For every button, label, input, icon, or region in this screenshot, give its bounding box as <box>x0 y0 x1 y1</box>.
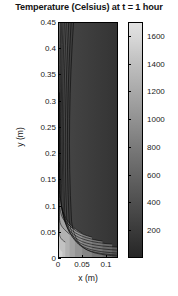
colorbar-label-1200: 1200 <box>147 87 165 96</box>
ytick-mark <box>58 48 61 49</box>
xtick-label-0: 0 <box>56 260 60 269</box>
colorbar-tick-mark <box>128 64 131 65</box>
colorbar-label-800: 800 <box>147 142 160 151</box>
colorbar-tick-mark <box>128 202 131 203</box>
ytick-label-9: 0.45 <box>40 18 56 27</box>
ytick-label-7: 0.35 <box>40 70 56 79</box>
ytick-label-4: 0.2 <box>45 149 56 158</box>
ytick-label-3: 0.15 <box>40 175 56 184</box>
x-axis-label: x (m) <box>58 273 118 283</box>
colorbar-label-600: 600 <box>147 170 160 179</box>
xtick-mark <box>82 255 83 258</box>
ytick-label-6: 0.3 <box>45 96 56 105</box>
colorbar-tick-mark <box>128 175 131 176</box>
xtick-label-2: 0.1 <box>100 260 111 269</box>
chart-title: Temperature (Celsius) at t = 1 hour <box>0 2 178 12</box>
colorbar-tick-mark <box>128 119 131 120</box>
contour-plot-area <box>58 22 118 258</box>
ytick-mark <box>58 101 61 102</box>
colorbar-tick-mark <box>128 230 131 231</box>
ytick-mark <box>58 258 61 259</box>
xtick-mark <box>58 255 59 258</box>
figure-canvas: Temperature (Celsius) at t = 1 hour <box>0 0 178 296</box>
colorbar <box>128 22 143 258</box>
ytick-mark <box>58 22 61 23</box>
ytick-label-2: 0.1 <box>45 201 56 210</box>
colorbar-label-400: 400 <box>147 198 160 207</box>
y-axis-label: y (m) <box>15 113 25 161</box>
colorbar-label-1000: 1000 <box>147 115 165 124</box>
ytick-mark <box>58 179 61 180</box>
colorbar-label-200: 200 <box>147 226 160 235</box>
ytick-label-8: 0.4 <box>45 44 56 53</box>
ytick-label-5: 0.25 <box>40 122 56 131</box>
contour-field <box>59 23 117 257</box>
ytick-mark <box>58 153 61 154</box>
colorbar-tick-mark <box>128 147 131 148</box>
ytick-mark <box>58 232 61 233</box>
colorbar-label-1400: 1400 <box>147 59 165 68</box>
colorbar-label-1600: 1600 <box>147 31 165 40</box>
colorbar-tick-mark <box>128 91 131 92</box>
ytick-label-1: 0.05 <box>40 227 56 236</box>
xtick-label-1: 0.05 <box>74 260 90 269</box>
ytick-mark <box>58 127 61 128</box>
ytick-mark <box>58 74 61 75</box>
colorbar-tick-mark <box>128 36 131 37</box>
xtick-mark <box>106 255 107 258</box>
ytick-mark <box>58 206 61 207</box>
